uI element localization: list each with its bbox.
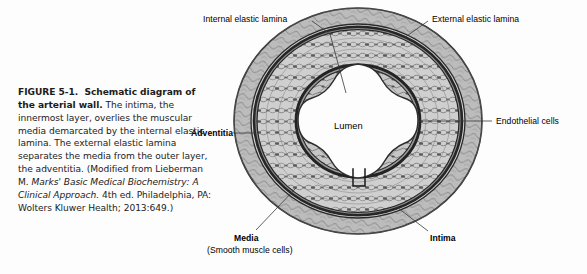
label-internal-elastic-lamina: Internal elastic lamina [203,14,287,24]
figure-caption: FIGURE 5-1. Schematic diagram of the art… [18,86,214,214]
label-intima: Intima [430,233,456,243]
label-media-sublabel: (Smooth muscle cells) [207,245,293,255]
figure-number: FIGURE 5-1. [18,87,78,97]
label-endothelial-cells: Endothelial cells [496,116,559,126]
label-lumen: Lumen [334,121,363,131]
label-external-elastic-lamina: External elastic lamina [432,14,519,24]
label-media: Media [234,233,259,243]
figure-body-first: The intima, the innermost layer, overlie… [18,100,207,187]
